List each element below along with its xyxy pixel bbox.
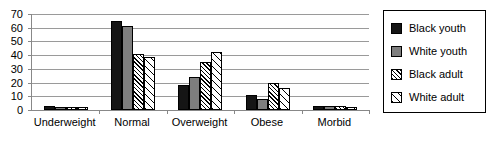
chart-legend: Black youthWhite youthBlack adultWhite a… [383,10,486,113]
bars-layer [32,14,369,110]
bar [246,95,257,110]
x-axis-category-label: Underweight [34,116,96,128]
bar [55,107,66,110]
bar [335,106,346,110]
legend-item[interactable]: White youth [391,40,485,63]
bar [200,62,211,110]
legend-swatch-icon [391,69,402,80]
bar [211,52,222,110]
bar-group [167,14,234,110]
y-axis-tick-label: 0 [17,105,23,116]
bar [133,54,144,110]
y-axis-tick-labels: 010203040506070 [0,0,26,151]
bar [189,77,200,110]
y-axis-tick-label: 20 [11,77,23,88]
bar-chart: 010203040506070 UnderweightNormalOverwei… [0,0,492,151]
bar [111,21,122,110]
bar [144,57,155,110]
bar-group [99,14,166,110]
bar-group [32,14,99,110]
bar [66,107,77,110]
plot-area [31,14,369,111]
x-axis-separator [302,110,303,114]
legend-item-label: White youth [409,46,467,57]
legend-item[interactable]: Black youth [391,17,485,40]
bar [324,106,335,110]
legend-swatch-icon [391,46,402,57]
legend-item[interactable]: White adult [391,86,485,109]
bar [257,99,268,110]
x-axis-separator [99,110,100,114]
bar-group [234,14,301,110]
x-axis-separator [369,110,370,114]
legend-swatch-icon [391,92,402,103]
y-axis-tick-label: 30 [11,63,23,74]
legend-swatch-icon [391,23,402,34]
x-axis-separator [234,110,235,114]
bar [279,88,290,110]
legend-item-label: Black adult [409,69,463,80]
bar [77,107,88,110]
legend-item-label: White adult [409,92,464,103]
legend-item-label: Black youth [409,23,466,34]
x-axis-category-label: Normal [114,116,149,128]
bar [268,83,279,110]
legend-item[interactable]: Black adult [391,63,485,86]
y-axis-tick-label: 10 [11,91,23,102]
y-axis-tick-label: 60 [11,22,23,33]
y-axis-tick-label: 50 [11,36,23,47]
bar-group [302,14,369,110]
x-axis-category-label: Morbid [317,116,351,128]
x-axis-category-label: Overweight [172,116,228,128]
x-axis-category-labels: UnderweightNormalOverweightObeseMorbid [31,116,368,136]
bar [122,26,133,110]
bar [44,106,55,110]
y-axis-tick-mark [28,110,32,111]
y-axis-tick-label: 40 [11,50,23,61]
bar [346,107,357,110]
bar [313,106,324,110]
bar [178,85,189,110]
plot-wrapper: 010203040506070 UnderweightNormalOverwei… [0,0,375,151]
x-axis-separator [167,110,168,114]
y-axis-tick-label: 70 [11,9,23,20]
x-axis-category-label: Obese [251,116,283,128]
